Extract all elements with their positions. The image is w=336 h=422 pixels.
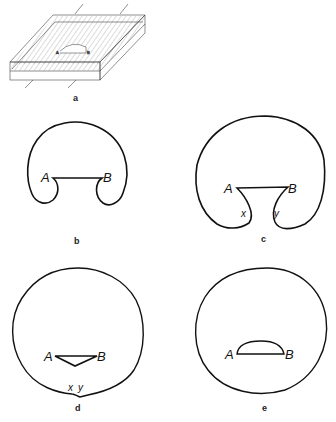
figure-canvas: A B a A B b A B x y c A B x y d A B e (0, 0, 336, 422)
panel-b-label-A: A (40, 170, 50, 185)
panel-c-label-y: y (273, 208, 280, 219)
panel-a-label-B: B (87, 50, 90, 55)
panel-e-label-B: B (285, 347, 294, 362)
panel-d-label-B: B (97, 349, 106, 364)
panel-a-label-A: A (56, 50, 59, 55)
panel-d-caption: d (75, 403, 81, 413)
panel-c-caption: c (261, 234, 266, 244)
panel-d (13, 268, 144, 397)
panel-c-label-x: x (240, 208, 247, 219)
panel-a-caption: a (73, 93, 79, 103)
panel-a: A B (10, 4, 145, 88)
panel-e-label-A: A (224, 347, 234, 362)
panel-d-label-x: x (67, 382, 74, 393)
panel-d-label-A: A (43, 349, 53, 364)
panel-b (28, 122, 127, 205)
panel-e-caption: e (262, 403, 267, 413)
panel-e (196, 268, 327, 393)
panel-c-label-A: A (223, 181, 233, 196)
panel-d-label-y: y (77, 382, 84, 393)
panel-b-caption: b (74, 236, 80, 246)
panel-b-label-B: B (103, 170, 112, 185)
panel-c-label-B: B (288, 181, 297, 196)
panel-c (196, 116, 325, 229)
